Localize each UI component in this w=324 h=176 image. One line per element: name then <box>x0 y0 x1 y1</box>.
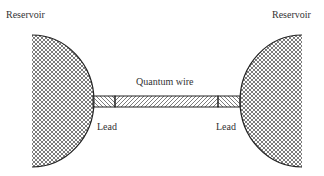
left-lead <box>93 96 115 107</box>
label-quantum-wire: Quantum wire <box>136 76 194 87</box>
label-reservoir-left: Reservoir <box>6 9 46 20</box>
quantum-wire-diagram: Reservoir Reservoir Quantum wire Lead Le… <box>0 0 324 176</box>
label-lead-left: Lead <box>97 121 117 132</box>
label-reservoir-right: Reservoir <box>272 9 312 20</box>
right-lead <box>218 96 240 107</box>
right-reservoir <box>240 35 302 167</box>
label-lead-right: Lead <box>216 121 236 132</box>
left-reservoir <box>32 35 94 167</box>
quantum-wire <box>115 96 218 107</box>
